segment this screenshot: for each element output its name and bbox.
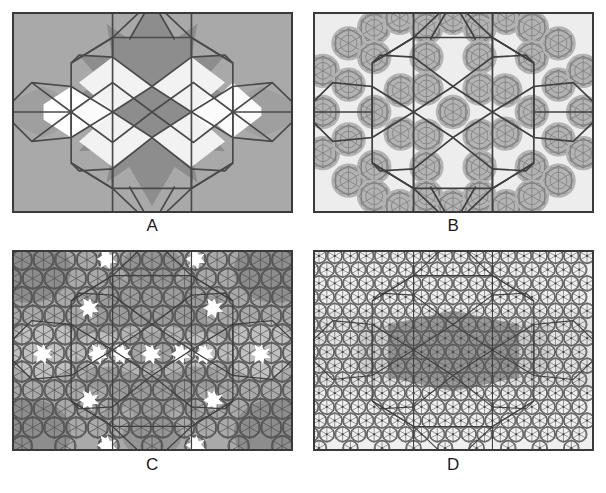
panel-a-graphic	[14, 14, 291, 211]
panel-label-c: C	[12, 455, 293, 475]
panel-c[interactable]	[12, 250, 293, 451]
panel-c-graphic	[14, 252, 291, 449]
panel-d-graphic	[315, 252, 592, 449]
panel-d-frame	[313, 250, 594, 451]
figure-root: A	[0, 0, 606, 493]
panel-d[interactable]	[313, 250, 594, 451]
panel-a[interactable]	[12, 12, 293, 213]
panel-b[interactable]	[313, 12, 594, 213]
panel-b-graphic	[315, 14, 592, 211]
panel-label-b: B	[313, 216, 594, 236]
panel-c-frame	[12, 250, 293, 451]
panel-label-d: D	[313, 455, 594, 475]
panel-label-a: A	[12, 216, 293, 236]
panel-b-frame	[313, 12, 594, 213]
panel-a-frame	[12, 12, 293, 213]
